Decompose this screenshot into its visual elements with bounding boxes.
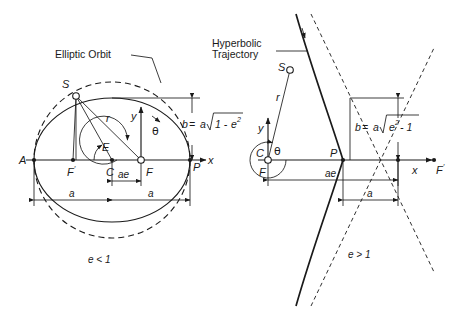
label-angle-E-elliptic: E [102,141,110,153]
label-point-F-prime-elliptic-prime: ′ [74,165,76,172]
figure-canvas: Elliptic Orbit S A F ′ C F P x y E θ r a… [0,0,459,323]
elliptic-orbit-panel: Elliptic Orbit S A F ′ C F P x y E θ r a… [18,48,243,265]
label-point-C-hyperbolic: C [256,147,264,159]
label-x-axis-hyperbolic: x [411,164,418,176]
label-y-axis-hyperbolic: y [257,122,265,134]
label-radius-vector-hyperbolic: r [276,91,281,103]
label-point-P-elliptic: P [193,161,201,173]
label-angle-theta-hyperbolic: θ [274,145,281,158]
label-point-F-prime-hyperbolic-prime: ′ [443,163,445,170]
label-x-axis-elliptic: x [207,154,214,166]
label-point-F-prime-hyperbolic: F ′ [436,163,445,176]
label-dimension-a-right-elliptic: a [148,188,154,199]
label-radius-vector-elliptic: r [106,112,111,124]
label-point-F-hyperbolic: F [259,166,267,178]
point-marker-A [32,158,36,162]
point-marker-S-elliptic [73,93,80,100]
label-dimension-ae-elliptic: ae [118,169,130,180]
label-point-A: A [18,154,26,166]
label-point-S-elliptic: S [62,78,70,90]
label-point-F-elliptic: F [146,166,154,178]
label-dimension-ae-hyperbolic: ae [325,168,337,179]
point-marker-P-hyperbolic [341,158,345,162]
point-marker-P-elliptic [188,158,192,162]
label-point-P-hyperbolic: P [330,147,338,159]
point-marker-F-prime-elliptic [71,158,75,162]
formula-equals-hyperbolic: = [362,121,368,133]
eccentricity-condition-elliptic: e < 1 [88,254,111,265]
formula-radicand-right-hyperbolic: - 1 [400,121,412,133]
asymptote-upper-left [311,14,434,272]
eccentric-anomaly-arc [94,145,102,160]
elliptic-orbit-callout-leader [131,55,161,83]
hyperbolic-trajectory-callout-line2: Trajectory [212,48,259,60]
formula-radicand-exponent-hyperbolic: 2 [394,119,399,126]
semi-minor-formula-elliptic: b = a 1 - e 2 [182,113,243,130]
point-marker-C-hyperbolic [396,158,400,162]
label-point-F-prime-elliptic: F ′ [67,165,76,178]
formula-equals-elliptic: = [189,118,195,130]
label-point-S-hyperbolic: S [278,61,286,73]
label-point-F-hyperbolic-base: F [259,166,267,178]
point-marker-S-hyperbolic [287,67,294,74]
orbit-direction-arrow [152,116,160,122]
formula-coefficient-a-hyperbolic: a [373,121,379,133]
point-marker-F-prime-hyperbolic [432,158,436,162]
label-point-C-elliptic: C [106,166,114,178]
label-y-axis-elliptic: y [130,110,138,122]
label-dimension-a-hyperbolic: a [367,188,373,199]
formula-radicand-exponent-elliptic: 2 [236,116,241,123]
orbit-geometry-figure: Elliptic Orbit S A F ′ C F P x y E θ r a… [0,0,459,323]
elliptic-orbit-callout-label: Elliptic Orbit [55,48,111,60]
semi-minor-formula-hyperbolic: b = a e 2 - 1 [355,115,419,133]
formula-coefficient-a-elliptic: a [200,118,206,130]
formula-lhs-b-elliptic: b [182,118,188,130]
point-marker-F-hyperbolic [265,157,272,164]
label-angle-theta-elliptic: θ [152,125,159,138]
hyperbolic-trajectory-panel: Hyperbolic Trajectory S r y C F θ P x F … [212,14,445,306]
point-marker-C-elliptic [110,158,114,162]
label-dimension-a-left-elliptic: a [69,188,75,199]
formula-lhs-b-hyperbolic: b [355,121,361,133]
formula-radicand-left-elliptic: 1 - [215,118,228,130]
eccentricity-condition-hyperbolic: e > 1 [348,249,371,260]
point-marker-F-elliptic [138,157,145,164]
